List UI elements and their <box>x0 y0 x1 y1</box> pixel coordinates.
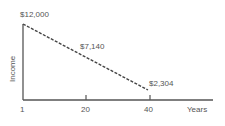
x-tick-label-1: 1 <box>20 106 24 114</box>
x-tick-label-20: 20 <box>81 106 90 114</box>
income-line <box>23 24 148 90</box>
label-end: $2,304 <box>149 80 173 88</box>
x-axis-label: Years <box>187 106 207 114</box>
label-mid: $7,140 <box>80 43 104 51</box>
label-start: $12,000 <box>20 11 49 19</box>
x-tick-label-40: 40 <box>144 106 153 114</box>
y-axis-label: Income <box>9 56 17 82</box>
